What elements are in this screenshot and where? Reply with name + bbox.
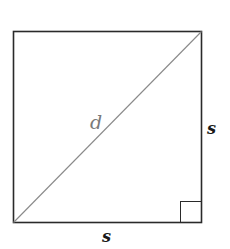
right-side-label: s xyxy=(206,119,216,138)
right-angle-marker xyxy=(181,202,202,223)
bottom-side-label: s xyxy=(101,227,111,246)
diagonal-label: d xyxy=(90,111,102,133)
diagonal-line xyxy=(14,32,202,223)
square-diagram: d s s xyxy=(0,0,230,249)
